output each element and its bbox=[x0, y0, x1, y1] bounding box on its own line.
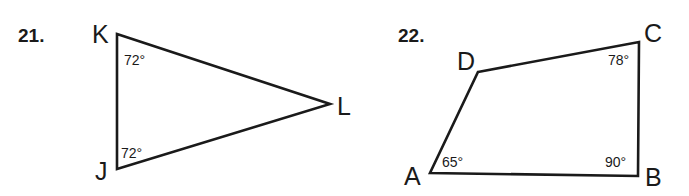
problem-21: 21. K L J 72° 72° bbox=[18, 20, 351, 185]
angle-label-c: 78° bbox=[608, 52, 629, 68]
vertex-label-l: L bbox=[337, 92, 351, 120]
vertex-label-c: C bbox=[644, 19, 662, 47]
angle-label-b: 90° bbox=[605, 154, 626, 170]
triangle-jkl bbox=[117, 34, 330, 169]
angle-label-a: 65° bbox=[442, 154, 463, 170]
geometry-figures: 21. K L J 72° 72° 22. D C B A 78° 90° 65… bbox=[0, 0, 689, 196]
problem-22: 22. D C B A 78° 90° 65° bbox=[398, 19, 662, 191]
vertex-label-j: J bbox=[95, 157, 108, 185]
vertex-label-b: B bbox=[645, 163, 662, 191]
problem-number: 22. bbox=[398, 25, 424, 46]
angle-label-k: 72° bbox=[124, 52, 145, 68]
vertex-label-d: D bbox=[457, 47, 475, 75]
angle-label-j: 72° bbox=[121, 145, 142, 161]
problem-number: 21. bbox=[18, 25, 44, 46]
vertex-label-a: A bbox=[404, 162, 421, 190]
vertex-label-k: K bbox=[92, 20, 109, 48]
